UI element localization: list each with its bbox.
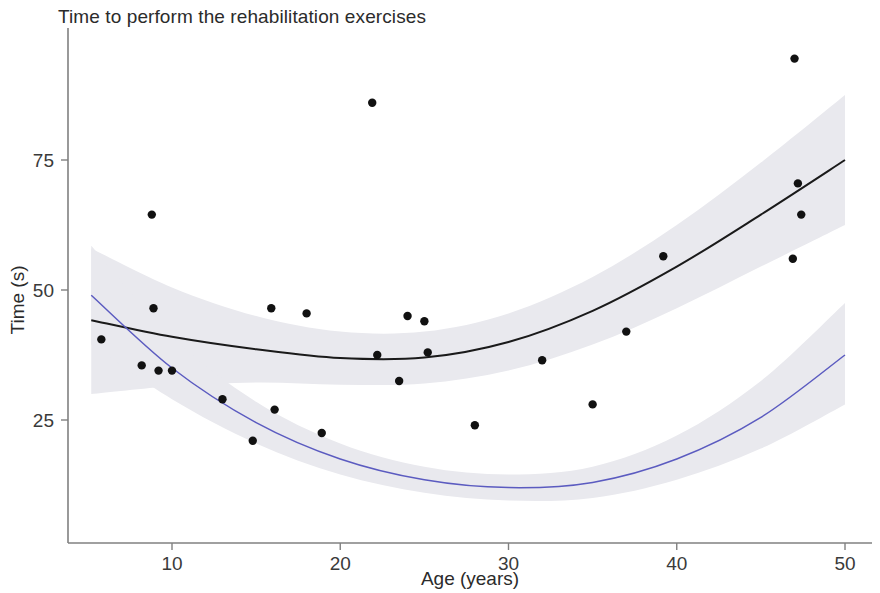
data-point [424, 348, 432, 356]
y-axis-title: Time (s) [7, 266, 28, 335]
data-point [318, 429, 326, 437]
y-tick-label: 50 [33, 280, 54, 301]
scatter-plot: 255075 1020304050 Time (s) Age (years) [0, 0, 880, 593]
data-point [302, 309, 310, 317]
data-point [790, 54, 798, 62]
data-point [168, 366, 176, 374]
x-axis-title: Age (years) [421, 568, 519, 589]
data-point [403, 312, 411, 320]
data-point [97, 335, 105, 343]
data-point [148, 210, 156, 218]
x-tick-label: 20 [330, 553, 351, 574]
data-point [218, 395, 226, 403]
data-point [373, 351, 381, 359]
x-tick-label: 50 [834, 553, 855, 574]
data-point [797, 210, 805, 218]
chart-figure: Time to perform the rehabilitation exerc… [0, 0, 880, 593]
x-tick-label: 10 [161, 553, 182, 574]
data-point [789, 255, 797, 263]
data-point [270, 405, 278, 413]
data-point [794, 179, 802, 187]
confidence-band-upper-fit-curve [91, 95, 845, 394]
data-point [138, 361, 146, 369]
data-point [154, 366, 162, 374]
data-point [588, 400, 596, 408]
data-point [420, 317, 428, 325]
x-tick-label: 40 [666, 553, 687, 574]
data-point [267, 304, 275, 312]
data-point [622, 327, 630, 335]
data-point [249, 437, 257, 445]
y-tick-label: 75 [33, 150, 54, 171]
y-tick-label: 25 [33, 410, 54, 431]
data-point [395, 377, 403, 385]
data-point [659, 252, 667, 260]
y-axis-ticks: 255075 [33, 150, 68, 431]
data-point [149, 304, 157, 312]
data-point [538, 356, 546, 364]
data-point [471, 421, 479, 429]
data-point [368, 99, 376, 107]
confidence-bands [91, 95, 845, 501]
